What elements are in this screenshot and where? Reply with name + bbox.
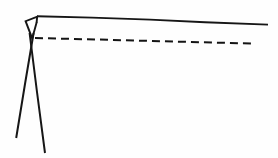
solid-line-start-tick (37, 16, 38, 22)
line-art-figure: Line art schematic (0, 0, 278, 158)
diagram-canvas: Line art schematic (0, 0, 278, 158)
